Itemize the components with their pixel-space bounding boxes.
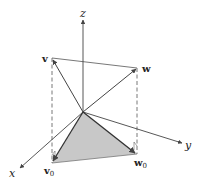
x-axis-label: x: [9, 167, 16, 180]
vector-w0-label: w0: [133, 157, 147, 170]
vector-v-label: v: [41, 53, 49, 64]
v-w-edge: [52, 58, 137, 68]
vector-w: [83, 69, 136, 112]
vector-w-label: w: [141, 63, 151, 74]
vector-projection-diagram: z y x v w v0 w0: [0, 0, 197, 196]
vector-v: [53, 60, 83, 112]
w0-right-angle-mark: [134, 142, 137, 150]
z-axis-label: z: [79, 7, 86, 20]
vector-v0-label: v0: [43, 165, 54, 178]
y-axis-label: y: [184, 139, 192, 152]
